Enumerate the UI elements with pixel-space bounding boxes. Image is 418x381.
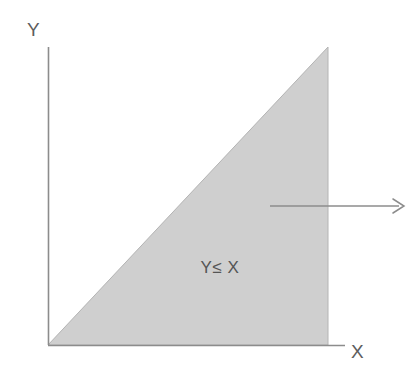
figure-canvas: [0, 0, 418, 381]
inequality-region-figure: Y X Y≤ X: [0, 0, 418, 381]
region-inequality-label: Y≤ X: [201, 259, 240, 276]
y-axis-label: Y: [27, 20, 40, 39]
shaded-region-triangle: [48, 47, 328, 345]
x-axis-label: X: [351, 342, 364, 361]
